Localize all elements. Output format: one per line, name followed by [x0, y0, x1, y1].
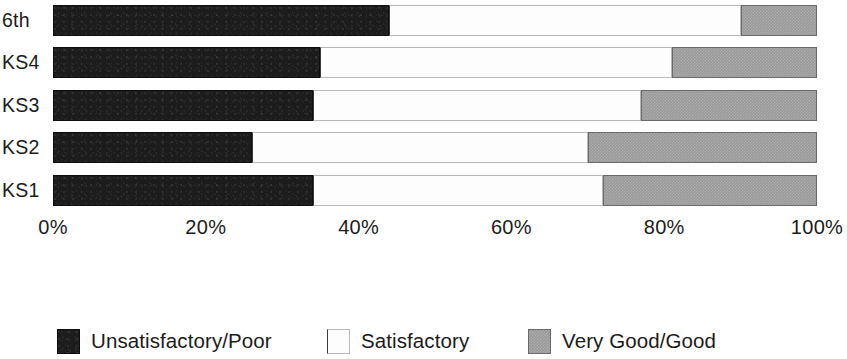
x-axis-tick-2: 40%	[338, 216, 379, 239]
bar-row: KS1	[0, 175, 847, 206]
legend-swatch-black-icon	[57, 329, 80, 354]
bar-track-1	[53, 47, 817, 78]
bar-segment-satisfactory-1	[320, 47, 671, 78]
bar-segment-verygood-2	[641, 90, 817, 121]
x-axis-tick-5: 100%	[791, 216, 843, 239]
x-axis-tick-0: 0%	[38, 216, 68, 239]
legend-label-unsatisfactory: Unsatisfactory/Poor	[91, 331, 272, 352]
bar-track-3	[53, 132, 817, 163]
x-axis-tick-1: 20%	[185, 216, 226, 239]
plot-area: 6th KS4 KS3	[0, 0, 847, 212]
bar-row: 6th	[0, 5, 847, 36]
bar-segment-unsatisfactory-1	[53, 47, 320, 78]
category-label-4: KS1	[2, 179, 48, 202]
legend-item-satisfactory: Satisfactory	[327, 326, 469, 356]
bar-segment-satisfactory-0	[389, 5, 740, 36]
stacked-bar-chart: 6th KS4 KS3	[0, 0, 847, 359]
bar-segment-verygood-1	[672, 47, 817, 78]
bar-row: KS4	[0, 47, 847, 78]
category-label-2: KS3	[2, 94, 48, 117]
bar-segment-unsatisfactory-3	[53, 132, 252, 163]
bar-segment-verygood-4	[603, 175, 817, 206]
bar-row: KS3	[0, 90, 847, 121]
legend-label-verygood: Very Good/Good	[562, 331, 716, 352]
x-axis-tick-3: 60%	[491, 216, 532, 239]
x-axis-tick-4: 80%	[644, 216, 685, 239]
bar-segment-unsatisfactory-2	[53, 90, 313, 121]
legend-swatch-gray-icon	[528, 329, 551, 354]
legend-item-verygood: Very Good/Good	[528, 326, 716, 356]
bar-track-2	[53, 90, 817, 121]
category-label-3: KS2	[2, 136, 48, 159]
bar-track-4	[53, 175, 817, 206]
bar-segment-satisfactory-2	[313, 90, 642, 121]
bar-segment-satisfactory-4	[313, 175, 603, 206]
bar-track-0	[53, 5, 817, 36]
bar-row: KS2	[0, 132, 847, 163]
legend-label-satisfactory: Satisfactory	[361, 331, 469, 352]
category-label-1: KS4	[2, 51, 48, 74]
bar-segment-satisfactory-3	[252, 132, 588, 163]
bar-segment-unsatisfactory-0	[53, 5, 389, 36]
bar-segment-verygood-3	[588, 132, 817, 163]
chart-legend: Unsatisfactory/Poor Satisfactory Very Go…	[0, 326, 847, 359]
category-label-0: 6th	[2, 9, 48, 32]
x-axis: 0% 20% 40% 60% 80% 100%	[53, 216, 817, 248]
bar-segment-verygood-0	[741, 5, 817, 36]
legend-swatch-white-icon	[327, 329, 350, 354]
legend-item-unsatisfactory: Unsatisfactory/Poor	[57, 326, 272, 356]
bar-segment-unsatisfactory-4	[53, 175, 313, 206]
